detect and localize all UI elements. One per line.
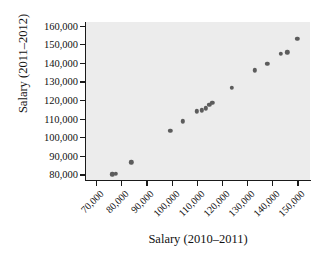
data-point bbox=[129, 160, 133, 164]
data-point bbox=[181, 119, 185, 123]
y-axis-tick bbox=[80, 174, 85, 175]
data-point bbox=[252, 68, 256, 72]
y-axis-tick bbox=[80, 119, 85, 120]
x-axis-tick bbox=[297, 181, 298, 186]
x-axis-tick bbox=[146, 181, 147, 186]
data-point bbox=[113, 172, 117, 176]
data-point bbox=[279, 51, 283, 55]
y-axis-tick bbox=[80, 63, 85, 64]
data-point bbox=[195, 109, 199, 113]
x-axis-tick bbox=[222, 181, 223, 186]
x-axis-tick bbox=[172, 181, 173, 186]
y-axis-tick-label-text: 140,000 bbox=[24, 57, 78, 68]
plot-panel bbox=[86, 22, 310, 180]
data-point bbox=[230, 86, 234, 90]
y-axis-tick-label-text: 80,000 bbox=[24, 169, 78, 180]
y-axis-tick bbox=[80, 100, 85, 101]
y-axis-tick-label-text: 100,000 bbox=[24, 132, 78, 143]
x-axis-tick bbox=[272, 181, 273, 186]
data-point bbox=[265, 62, 269, 66]
y-axis-line bbox=[85, 22, 86, 181]
data-point bbox=[210, 101, 214, 105]
y-axis-tick bbox=[80, 156, 85, 157]
x-axis-line bbox=[85, 180, 311, 181]
x-axis-tick bbox=[96, 181, 97, 186]
data-point bbox=[285, 50, 289, 54]
y-axis-tick bbox=[80, 137, 85, 138]
y-axis-tick bbox=[80, 81, 85, 82]
x-axis-tick bbox=[197, 181, 198, 186]
x-axis-title: Salary (2010–2011) bbox=[86, 232, 310, 247]
y-axis-tick-label-text: 90,000 bbox=[24, 150, 78, 161]
y-axis-tick-label-text: 110,000 bbox=[24, 113, 78, 124]
x-axis-tick bbox=[121, 181, 122, 186]
y-axis-tick bbox=[80, 26, 85, 27]
plot-data-area bbox=[86, 22, 310, 180]
y-axis-tick-label-text: 130,000 bbox=[24, 76, 78, 87]
y-axis-tick-label-text: 120,000 bbox=[24, 95, 78, 106]
y-axis-tick bbox=[80, 44, 85, 45]
data-point bbox=[203, 106, 207, 110]
x-axis-tick bbox=[247, 181, 248, 186]
data-point bbox=[168, 129, 172, 133]
data-point bbox=[295, 37, 299, 41]
scatter-plot-figure: 80,00090,000100,000110,000120,000130,000… bbox=[0, 0, 334, 256]
y-axis-tick-label-text: 160,000 bbox=[24, 20, 78, 31]
y-axis-tick-label-text: 150,000 bbox=[24, 39, 78, 50]
y-axis-title: Salary (2011–2012) bbox=[16, 0, 31, 139]
